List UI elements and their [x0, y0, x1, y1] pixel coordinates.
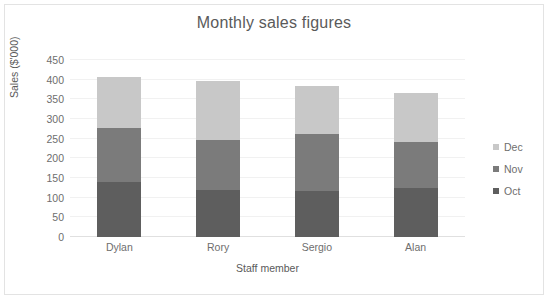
- x-tick-label-dylan: Dylan: [74, 241, 164, 253]
- bar-segment-sergio-nov[interactable]: [295, 134, 339, 191]
- y-axis-title: Sales ($'000): [8, 36, 20, 98]
- legend-swatch-nov-icon: [493, 166, 499, 172]
- legend-label-nov: Nov: [504, 163, 523, 175]
- y-tick-label-50: 50: [52, 211, 64, 223]
- bar-segment-sergio-dec[interactable]: [295, 86, 339, 133]
- x-axis-title: Staff member: [70, 262, 465, 274]
- bar-segment-dylan-nov[interactable]: [97, 128, 141, 182]
- y-tick-label-400: 400: [46, 74, 64, 86]
- y-tick-label-100: 100: [46, 192, 64, 204]
- legend-label-dec: Dec: [504, 141, 523, 153]
- legend-item-nov[interactable]: Nov: [493, 158, 523, 180]
- y-tick-label-300: 300: [46, 113, 64, 125]
- legend-item-oct[interactable]: Oct: [493, 180, 523, 202]
- bar-segment-rory-dec[interactable]: [196, 81, 240, 140]
- legend-swatch-dec-icon: [493, 144, 499, 150]
- legend-label-oct: Oct: [504, 185, 520, 197]
- y-tick-label-250: 250: [46, 133, 64, 145]
- bar-segment-sergio-oct[interactable]: [295, 191, 339, 237]
- x-tick-label-rory: Rory: [173, 241, 263, 253]
- bar-segment-alan-oct[interactable]: [394, 188, 438, 237]
- x-axis-tick-labels: DylanRorySergioAlan: [70, 241, 465, 257]
- y-tick-label-200: 200: [46, 152, 64, 164]
- legend-swatch-oct-icon: [493, 188, 499, 194]
- y-tick-label-450: 450: [46, 54, 64, 66]
- x-tick-label-alan: Alan: [371, 241, 461, 253]
- y-tick-label-0: 0: [58, 231, 64, 243]
- y-tick-label-350: 350: [46, 93, 64, 105]
- chart-container: Monthly sales figures Sales ($'000) 0501…: [0, 0, 548, 301]
- bar-segment-dylan-oct[interactable]: [97, 182, 141, 237]
- legend-item-dec[interactable]: Dec: [493, 136, 523, 158]
- bar-segment-alan-dec[interactable]: [394, 93, 438, 142]
- y-tick-label-150: 150: [46, 172, 64, 184]
- bar-segment-rory-nov[interactable]: [196, 140, 240, 190]
- bar-segment-rory-oct[interactable]: [196, 190, 240, 237]
- plot-area: [70, 60, 465, 237]
- bar-dylan[interactable]: [97, 60, 141, 237]
- bar-sergio[interactable]: [295, 60, 339, 237]
- bar-segment-dylan-dec[interactable]: [97, 77, 141, 129]
- y-axis-tick-labels: 050100150200250300350400450: [28, 60, 64, 237]
- bar-alan[interactable]: [394, 60, 438, 237]
- bar-rory[interactable]: [196, 60, 240, 237]
- x-tick-label-sergio: Sergio: [272, 241, 362, 253]
- bar-segment-alan-nov[interactable]: [394, 142, 438, 188]
- chart-legend: DecNovOct: [493, 136, 523, 202]
- chart-title: Monthly sales figures: [0, 14, 548, 32]
